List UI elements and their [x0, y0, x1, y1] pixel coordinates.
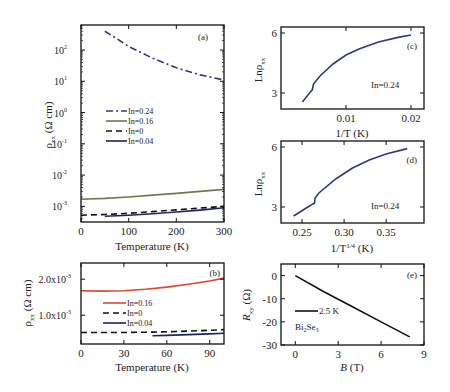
panel-c-xlabel: 1/T (K) [335, 127, 368, 140]
x-tick-label: 200 [168, 225, 185, 237]
x-tick-label: 30 [118, 347, 130, 359]
panel-d-tag: (d) [407, 155, 418, 165]
panel-b: 03060901.0x10-32.0x10-3 (b) Temperature … [21, 263, 224, 374]
series-line [81, 330, 224, 333]
panel-b-tag: (b) [210, 268, 221, 278]
series-line [105, 208, 224, 217]
x-tick-label: 60 [161, 347, 173, 359]
y-tick-label: 2.0x10-3 [39, 273, 72, 285]
x-tick-label: 0.35 [377, 226, 397, 238]
y-tick-label: 10-3 [52, 200, 67, 212]
panel-b-ylabel: ρxx (Ω cm) [21, 279, 36, 326]
series-line [81, 278, 224, 291]
panel-e-note: Bi2Se3 [295, 322, 319, 333]
figure: 010020030010210110010-110-210-3 (a) Temp… [0, 0, 450, 392]
y-tick-label: 6 [272, 27, 278, 39]
panel-e-tag: (e) [407, 270, 417, 280]
y-tick-label: 3 [272, 201, 278, 213]
y-tick-label: 3 [272, 87, 278, 99]
panel-e: 03690-10-20-30 (e) 2.5 K Bi2Se3 B (T) Rx… [240, 264, 427, 374]
legend-label: In=0.04 [128, 137, 153, 146]
x-tick-label: 0 [293, 348, 299, 360]
x-tick-label: 0.01 [336, 112, 355, 124]
series-line [302, 35, 411, 102]
y-tick-label: -10 [262, 293, 277, 305]
panel-a-legend: In=0.24In=0.16In=0In=0.04 [106, 107, 153, 146]
panel-a-tag: (a) [198, 32, 208, 42]
panel-b-xlabel: Temperature (K) [115, 361, 189, 374]
x-tick-label: 0.30 [334, 226, 354, 238]
legend-label: In=0.16 [127, 299, 152, 308]
panel-d: 0.250.300.3536 (d) In=0.24 1/T1/4 (K) Ln… [252, 141, 424, 255]
x-tick-label: 9 [421, 348, 427, 360]
x-tick-label: 0 [78, 347, 84, 359]
y-tick-label: 100 [54, 107, 67, 119]
panel-b-plot-area [81, 278, 224, 336]
legend-label: In=0 [127, 309, 142, 318]
series-line [81, 189, 224, 199]
panel-c-tag: (c) [407, 41, 417, 51]
legend-label: In=0.16 [128, 117, 153, 126]
panel-d-xlabel: 1/T1/4 (K) [331, 242, 374, 255]
y-tick-label: 1.0x10-3 [39, 309, 72, 321]
panel-a: 010020030010210110010-110-210-3 (a) Temp… [42, 25, 233, 253]
panel-e-xlabel: B (T) [340, 361, 364, 374]
x-tick-label: 300 [216, 225, 233, 237]
legend-label: In=0.24 [128, 107, 153, 116]
x-tick-label: 3 [335, 348, 341, 360]
legend-label: In=0 [128, 127, 143, 136]
y-tick-label: 102 [54, 44, 67, 56]
panel-b-legend: In=0.16In=0In=0.04 [103, 299, 152, 328]
y-tick-label: 101 [54, 75, 67, 87]
y-tick-label: 10-2 [52, 169, 67, 181]
x-tick-label: 100 [120, 225, 137, 237]
panel-d-ylabel: Lnρxx [252, 171, 267, 196]
x-tick-label: 6 [378, 348, 384, 360]
panel-e-legend-label: 2.5 K [319, 306, 340, 316]
y-tick-label: 6 [272, 141, 278, 153]
y-tick-label: -30 [262, 339, 277, 351]
panel-c-frame [281, 27, 424, 109]
panel-c: 0.010.0236 (c) In=0.24 1/T (K) Lnρxx [252, 27, 424, 140]
panel-c-note: In=0.24 [371, 80, 400, 90]
y-tick-label: 0 [272, 270, 278, 282]
legend-label: In=0.04 [127, 319, 152, 328]
panel-c-ylabel: Lnρxx [252, 57, 267, 82]
x-tick-label: 0.25 [292, 226, 312, 238]
x-tick-label: 0 [78, 225, 84, 237]
series-line [153, 333, 225, 336]
x-tick-label: 90 [204, 347, 216, 359]
y-tick-label: -20 [262, 316, 277, 328]
panel-a-xlabel: Temperature (K) [115, 240, 189, 253]
panel-e-ylabel: Rxy (Ω) [240, 289, 255, 322]
panel-c-plot-area [302, 35, 411, 102]
panel-d-note: In=0.24 [371, 201, 400, 211]
x-tick-label: 0.02 [401, 112, 420, 124]
